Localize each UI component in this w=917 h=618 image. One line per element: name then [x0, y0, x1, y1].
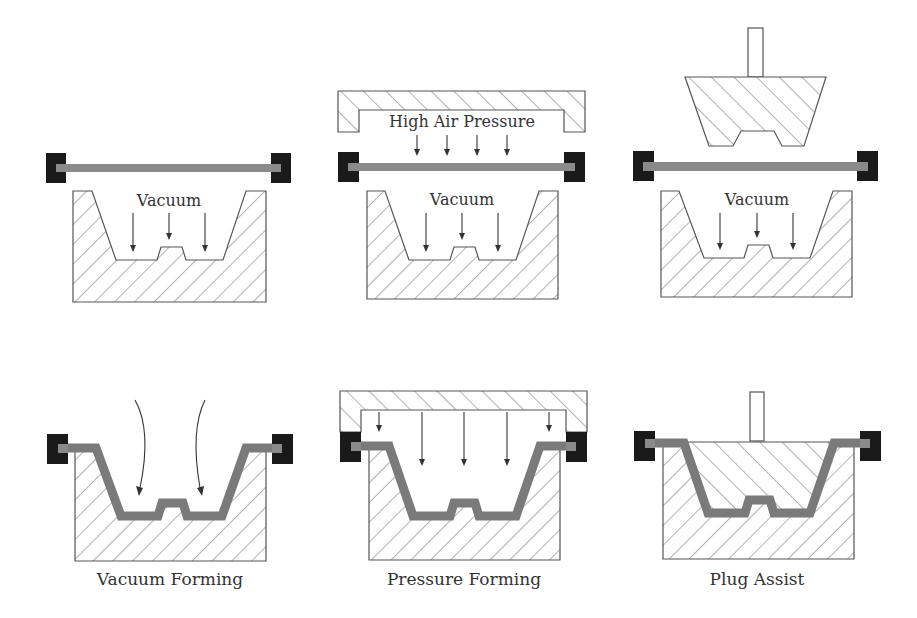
pressure-arrows [376, 412, 552, 466]
high-air-pressure-label: High Air Pressure [389, 112, 535, 131]
pressure-arrows [414, 135, 510, 156]
panel-vacuum-forming: Vacuum Forming [47, 400, 293, 589]
caption-vacuum-forming: Vacuum Forming [96, 569, 244, 589]
vacuum-label: Vacuum [724, 190, 789, 209]
vacuum-arrows [423, 213, 501, 252]
caption-pressure-forming: Pressure Forming [387, 569, 541, 589]
plug-rod [748, 28, 763, 77]
plug [685, 77, 826, 146]
panel-pressure-before: High Air Pressure Vacuum [338, 91, 585, 299]
vacuum-label: Vacuum [429, 190, 494, 209]
plastic-sheet [56, 164, 281, 172]
panel-plug-assist: Plug Assist [634, 392, 881, 589]
panel-plug-before: Vacuum [633, 28, 878, 297]
panel-vacuum-before: Vacuum [46, 153, 291, 302]
plastic-sheet [348, 163, 575, 171]
vacuum-arrows [130, 213, 208, 252]
plastic-sheet [643, 162, 868, 171]
plug-rod [750, 392, 764, 441]
panel-pressure-forming: Pressure Forming [340, 391, 587, 589]
curved-vacuum-arrows [135, 400, 205, 496]
thermoforming-diagram: Vacuum High Air Pressure Vacuum [0, 0, 917, 618]
vacuum-label: Vacuum [136, 191, 201, 210]
caption-plug-assist: Plug Assist [710, 569, 805, 589]
